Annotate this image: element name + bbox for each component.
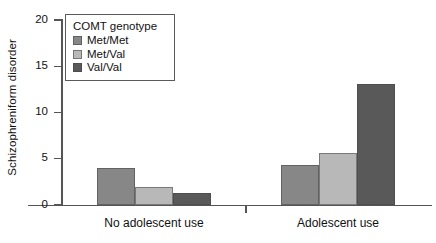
legend-entry: Met/Met xyxy=(73,35,167,47)
legend-entry: Met/Val xyxy=(73,49,167,61)
y-axis-tick-label: 15 xyxy=(8,59,48,71)
y-axis-tick xyxy=(54,112,61,113)
bar xyxy=(173,193,211,205)
legend-swatch-icon xyxy=(73,36,82,45)
bar xyxy=(319,153,357,205)
legend-entry-label: Val/Val xyxy=(87,62,122,74)
x-axis-category-label: Adolescent use xyxy=(248,216,428,230)
bar xyxy=(357,84,395,205)
legend-title: COMT genotype xyxy=(73,20,167,32)
legend: COMT genotype Met/MetMet/ValVal/Val xyxy=(65,14,175,81)
x-axis-tick xyxy=(245,206,246,213)
x-axis-category-label: No adolescent use xyxy=(64,216,244,230)
y-axis-tick xyxy=(54,19,61,20)
legend-entry: Val/Val xyxy=(73,62,167,74)
bar xyxy=(97,168,135,205)
y-axis-tick-label: 5 xyxy=(8,151,48,163)
legend-swatch-icon xyxy=(73,50,82,59)
legend-swatch-icon xyxy=(73,63,82,72)
legend-entry-label: Met/Met xyxy=(87,35,129,47)
legend-entry-label: Met/Val xyxy=(87,49,125,61)
y-axis-tick xyxy=(54,204,61,205)
y-axis-tick-label: 20 xyxy=(8,13,48,25)
bar xyxy=(281,165,319,205)
y-axis-tick-label: 10 xyxy=(8,105,48,117)
y-axis-tick xyxy=(54,158,61,159)
y-axis-tick-label: 0 xyxy=(8,198,48,210)
legend-entries: Met/MetMet/ValVal/Val xyxy=(73,35,167,74)
bar-chart: Schizophreniform disorder 05101520 No ad… xyxy=(0,0,436,243)
y-axis-tick xyxy=(54,66,61,67)
bar xyxy=(135,187,173,205)
